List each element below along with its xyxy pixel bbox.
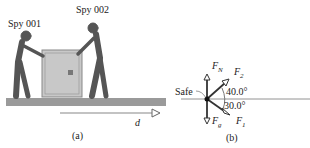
spy-002-label: Spy 002 [76, 4, 109, 15]
floor [6, 98, 166, 106]
force-gravity-label: Fg [212, 115, 222, 129]
caption-a: (a) [72, 130, 83, 141]
safe-box [42, 50, 82, 97]
safe-dial [68, 70, 73, 75]
figure-canvas [0, 0, 310, 148]
displacement-arrowhead [152, 109, 160, 117]
angle-lower-label: 30.0° [224, 100, 246, 111]
angle-upper-label: 40.0° [226, 86, 248, 97]
spy-001-figure [16, 31, 43, 96]
safe-label: Safe [175, 86, 193, 97]
safe-leader [196, 91, 206, 98]
force-f1-label: F1 [236, 115, 246, 129]
displacement-label: d [135, 117, 140, 128]
force-normal-label: FN [212, 60, 223, 74]
spy-001-label: Spy 001 [8, 18, 41, 29]
caption-b: (b) [226, 132, 238, 143]
force-f2-label: F2 [234, 66, 244, 80]
